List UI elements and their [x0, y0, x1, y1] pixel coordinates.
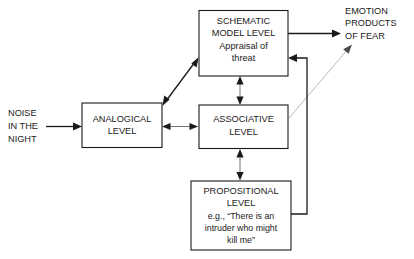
arrow-analogical-schematic-diagonal — [162, 57, 198, 106]
emotion-label-line-2: PRODUCTS — [345, 18, 397, 28]
schematic-model-level-line-2: MODEL LEVEL — [212, 28, 276, 38]
arrow-analogical-associative-horizontal — [162, 123, 198, 130]
arrow-associative-to-emotion-products — [289, 45, 352, 119]
arrow-schematic-associative-vertical — [236, 76, 243, 105]
noise-label-line-3: NIGHT — [8, 134, 37, 144]
propositional-level-line-1: PROPOSITIONAL — [203, 186, 278, 196]
emotion-products-of-fear-label: EMOTION PRODUCTS OF FEAR — [345, 6, 397, 41]
noise-in-the-night-label: NOISE IN THE NIGHT — [8, 108, 38, 144]
analogical-level-line-1: ANALOGICAL — [93, 114, 152, 124]
schematic-model-level-line-1: SCHEMATIC — [217, 16, 271, 26]
arrow-schematic-to-emotion-products — [288, 30, 341, 38]
associative-level-box[interactable]: ASSOCIATIVE LEVEL — [199, 105, 288, 149]
arrow-associative-propositional-vertical — [236, 149, 243, 181]
schematic-model-level-box[interactable]: SCHEMATIC MODEL LEVEL Appraisal of threa… — [199, 11, 288, 77]
schematic-model-level-line-4: threat — [232, 53, 256, 63]
associative-level-line-2: LEVEL — [229, 127, 258, 137]
analogical-level-line-2: LEVEL — [108, 126, 137, 136]
levels-of-representation-diagram: SCHEMATIC MODEL LEVEL Appraisal of threa… — [0, 0, 414, 259]
propositional-level-line-5: kill me” — [227, 235, 255, 245]
propositional-level-line-4: intruder who might — [205, 223, 278, 233]
emotion-label-line-1: EMOTION — [345, 6, 388, 16]
schematic-model-level-line-3: Appraisal of — [219, 41, 268, 51]
analogical-level-box[interactable]: ANALOGICAL LEVEL — [82, 103, 162, 148]
noise-label-line-2: IN THE — [8, 121, 38, 131]
emotion-label-line-3: OF FEAR — [345, 31, 385, 41]
propositional-level-box[interactable]: PROPOSITIONAL LEVEL e.g., “There is an i… — [191, 181, 291, 250]
propositional-level-line-2: LEVEL — [227, 198, 256, 208]
propositional-level-line-3: e.g., “There is an — [208, 211, 275, 221]
noise-label-line-1: NOISE — [8, 108, 37, 118]
arrow-noise-to-analogical — [46, 123, 82, 131]
diagram-page: SCHEMATIC MODEL LEVEL Appraisal of threa… — [0, 0, 414, 259]
associative-level-line-1: ASSOCIATIVE — [213, 114, 274, 124]
